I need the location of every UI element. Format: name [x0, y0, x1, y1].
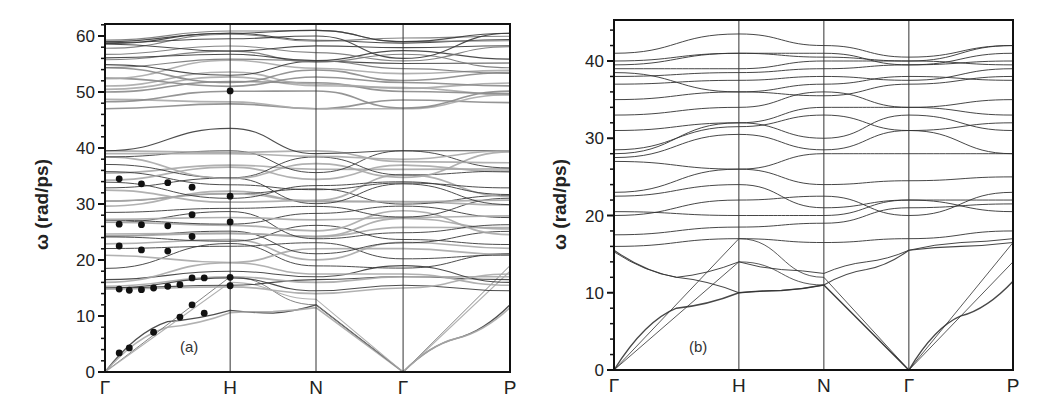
data-point	[189, 211, 196, 218]
y-tick-label: 40	[585, 52, 604, 71]
data-point	[164, 283, 171, 290]
y-tick-label: 20	[585, 207, 604, 226]
panel-a-label: (a)	[180, 338, 198, 355]
panel-a: 0102030405060ΓHNΓP	[76, 24, 516, 398]
panel-a-y-axis-title: ω (rad/ps)	[31, 159, 52, 250]
data-point	[227, 193, 234, 200]
dispersion-branch	[105, 206, 510, 224]
dispersion-branch	[614, 231, 1013, 246]
data-point	[189, 184, 196, 191]
data-point	[189, 301, 196, 308]
figure: 0102030405060ΓHNΓP 010203040ΓHNΓP (a)(b)…	[0, 0, 1058, 417]
data-point	[138, 247, 145, 254]
x-symmetry-label: Γ	[904, 375, 914, 396]
y-tick-label: 10	[585, 284, 604, 303]
data-point	[189, 275, 196, 282]
data-point	[150, 285, 157, 292]
data-point	[116, 350, 123, 357]
dispersion-branch	[614, 154, 1013, 169]
data-point	[201, 310, 208, 317]
y-tick-label: 30	[585, 129, 604, 148]
x-symmetry-label: P	[1007, 375, 1020, 396]
dispersion-branch	[614, 76, 1013, 99]
dispersion-branch	[614, 239, 1013, 370]
x-symmetry-label: P	[504, 377, 517, 398]
dispersion-branch	[614, 169, 1013, 192]
data-point	[227, 274, 234, 281]
dispersion-curves	[614, 34, 1013, 370]
x-symmetry-label: H	[732, 375, 746, 396]
data-point	[138, 180, 145, 187]
data-point	[126, 287, 133, 294]
data-point	[164, 179, 171, 186]
dispersion-branch	[614, 115, 1013, 154]
y-tick-label: 10	[76, 307, 95, 326]
dispersion-curves	[105, 30, 510, 372]
x-symmetry-label: N	[309, 377, 323, 398]
y-tick-label: 60	[76, 27, 95, 46]
y-tick-label: 0	[595, 361, 604, 380]
dispersion-branch	[614, 239, 1013, 278]
y-tick-label: 0	[86, 363, 95, 382]
panel-b-label: (b)	[689, 338, 707, 355]
y-tick-label: 50	[76, 83, 95, 102]
data-point	[189, 233, 196, 240]
data-point	[116, 175, 123, 182]
x-symmetry-label: N	[817, 375, 831, 396]
data-point	[164, 248, 171, 255]
data-point	[116, 243, 123, 250]
data-point	[227, 219, 234, 226]
data-point	[164, 222, 171, 229]
data-point	[201, 275, 208, 282]
x-symmetry-label: H	[223, 377, 237, 398]
x-symmetry-label: Γ	[609, 375, 619, 396]
dispersion-branch	[614, 61, 1013, 69]
panel-b-y-axis-title: ω (rad/ps)	[549, 159, 570, 250]
x-symmetry-label: Γ	[100, 377, 110, 398]
dispersion-branch	[614, 243, 1013, 293]
dispersion-branch	[614, 200, 1013, 215]
x-symmetry-label: Γ	[398, 377, 408, 398]
plot-frame	[614, 20, 1013, 370]
dispersion-branch	[105, 191, 510, 206]
data-point	[227, 87, 234, 94]
data-point	[116, 286, 123, 293]
dispersion-branch	[614, 107, 1013, 130]
data-point	[177, 314, 184, 321]
data-point	[138, 221, 145, 228]
y-tick-label: 40	[76, 139, 95, 158]
data-point	[227, 282, 234, 289]
dispersion-branch	[105, 227, 510, 236]
data-point	[126, 345, 133, 352]
data-point	[116, 221, 123, 228]
dispersion-branch	[105, 305, 510, 372]
data-point	[138, 286, 145, 293]
data-point	[150, 329, 157, 336]
data-point	[177, 281, 184, 288]
y-tick-label: 30	[76, 195, 95, 214]
y-tick-label: 20	[76, 251, 95, 270]
dispersion-branch	[105, 91, 510, 108]
panel-b: 010203040ΓHNΓP	[585, 20, 1019, 396]
dispersion-branch	[105, 128, 510, 153]
dispersion-branch	[105, 308, 510, 372]
dispersion-branch	[614, 281, 1013, 370]
